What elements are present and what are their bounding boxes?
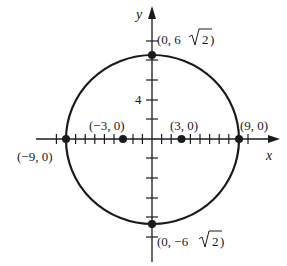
covertex-top-point (148, 51, 156, 59)
label-bottom-prefix: (0, −6 (157, 234, 189, 249)
vertex-right-point (235, 135, 243, 143)
label-top-suffix: ) (210, 32, 214, 47)
x-axis-arrow-icon (268, 135, 280, 143)
svg-text:(0, −6: (0, −6 (157, 234, 189, 249)
svg-text:2: 2 (202, 32, 209, 47)
y-axis-arrow-icon (148, 6, 156, 19)
svg-text:2: 2 (212, 234, 219, 249)
focus-right-point (178, 135, 186, 143)
focus-left-point (119, 135, 127, 143)
ellipse-diagram: x y 4 (−9, 0) (9, 0) (−3, 0) ( (0, 0, 287, 266)
label-focus-left: (−3, 0) (89, 118, 125, 133)
label-top-prefix: (0, 6 (157, 32, 181, 47)
label-bottom-suffix: ) (220, 234, 224, 249)
y-axis-label: y (134, 7, 143, 22)
vertex-left-point (62, 135, 70, 143)
label-bottom-root: 2 (212, 234, 219, 249)
x-axis: x (36, 134, 280, 163)
label-vertex-right: (9, 0) (240, 118, 268, 133)
label-top-root: 2 (202, 32, 209, 47)
y-tick-label-4: 4 (135, 92, 142, 107)
svg-text:(0, 6: (0, 6 (157, 32, 181, 47)
label-focus-right: (3, 0) (170, 118, 198, 133)
sqrt-icon (199, 231, 222, 247)
svg-text:): ) (220, 234, 224, 249)
label-covertex-bottom: (0, −6 2 ) (157, 231, 224, 249)
covertex-bottom-point (148, 220, 156, 228)
sqrt-icon (189, 29, 212, 45)
label-covertex-top: (0, 6 2 ) (157, 29, 214, 47)
label-vertex-left: (−9, 0) (17, 149, 53, 164)
svg-text:): ) (210, 32, 214, 47)
x-axis-label: x (265, 148, 273, 163)
